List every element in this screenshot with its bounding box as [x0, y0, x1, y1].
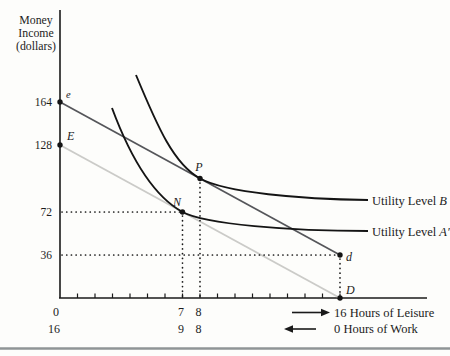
work-arrowhead-icon	[284, 325, 293, 333]
point-dot-D	[337, 295, 342, 300]
labor-leisure-chart: Money Income (dollars) 164 128 72 36 e E…	[0, 0, 450, 356]
point-dot-P	[197, 176, 202, 181]
point-dot-N	[180, 209, 185, 214]
leisure-tick-0: 0	[53, 305, 59, 319]
point-label-D: D	[345, 283, 355, 297]
work-axis-label: 0 Hours of Work	[334, 322, 419, 336]
utility-level-B-prefix: Utility Level	[372, 194, 439, 208]
y-tick-label-36: 36	[41, 249, 53, 261]
y-tick-label-72: 72	[41, 206, 53, 218]
leisure-arrowhead-icon	[321, 309, 330, 317]
utility-level-B-var: B	[439, 194, 447, 208]
utility-level-A-label: Utility Level A′	[372, 225, 450, 239]
point-label-P: P	[194, 160, 203, 174]
leisure-tick-7: 7	[178, 305, 184, 319]
leisure-axis-label: 16 Hours of Leisure	[334, 306, 435, 320]
point-label-e: e	[66, 89, 71, 100]
point-dot-e	[57, 99, 62, 104]
point-dot-E	[57, 142, 62, 147]
y-tick-label-128: 128	[35, 139, 53, 151]
y-tick-label-164: 164	[35, 96, 53, 108]
utility-level-A-prefix: Utility Level	[372, 225, 439, 239]
figure-page: Money Income (dollars) 164 128 72 36 e E…	[0, 0, 450, 356]
point-label-N: N	[172, 195, 182, 209]
point-dot-d	[337, 252, 342, 257]
y-axis-title-line3: (dollars)	[16, 39, 56, 53]
work-tick-8: 8	[196, 322, 202, 336]
indifference-curve-A-prime	[112, 108, 368, 231]
work-tick-9: 9	[178, 322, 184, 336]
indifference-curve-B	[136, 75, 368, 200]
utility-level-B-label: Utility Level B	[372, 194, 447, 208]
utility-level-A-var: A′	[438, 225, 450, 239]
y-axis-title-line2: Income	[18, 26, 53, 40]
work-tick-16: 16	[48, 322, 60, 336]
y-axis-title-line1: Money	[19, 13, 53, 27]
point-label-E: E	[66, 129, 75, 143]
leisure-tick-8: 8	[196, 305, 202, 319]
point-label-d: d	[346, 250, 353, 264]
y-axis-title: Money Income (dollars)	[16, 13, 56, 53]
